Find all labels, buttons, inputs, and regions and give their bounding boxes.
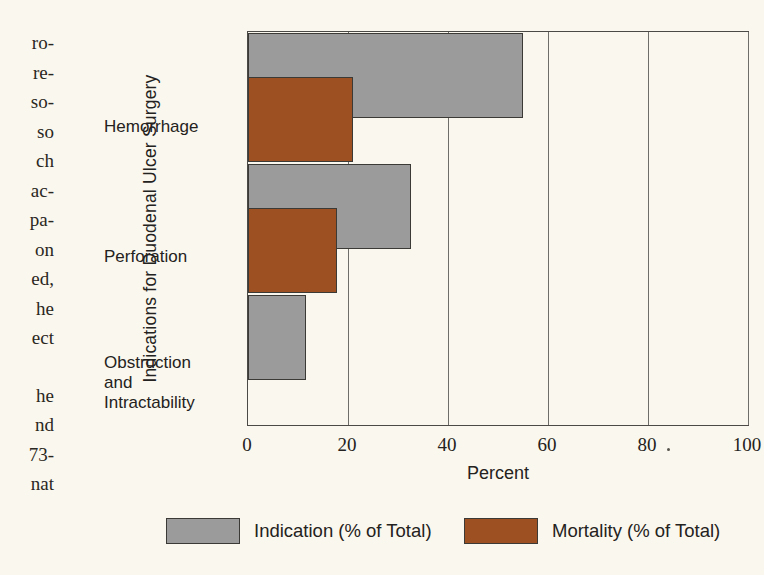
legend-label-mortality: Mortality (% of Total) [552, 520, 720, 542]
legend-swatch-indication [166, 518, 240, 544]
bar-perforation-mortality [248, 208, 337, 293]
body-text-fragment: ac- [0, 176, 54, 206]
category-label-line: Hemorrhage [104, 117, 244, 137]
body-text-fragment: he [0, 294, 54, 324]
text-spacer [0, 353, 54, 381]
category-label-hemorrhage: Hemorrhage [104, 117, 244, 137]
scan-artifact-dot [667, 448, 670, 451]
body-text-fragment: on [0, 235, 54, 265]
body-text-fragment: nat [0, 469, 54, 499]
category-label-perforation: Perforation [104, 247, 244, 267]
text-spacer [0, 0, 54, 28]
bar-obstruction-intractability-indication [248, 295, 306, 380]
plot-area [247, 31, 749, 426]
chart-legend: Indication (% of Total) Mortality (% of … [116, 518, 764, 558]
x-tick-label-80: 80 [638, 434, 657, 456]
body-text-fragment: 73- [0, 440, 54, 470]
body-text-fragment: he [0, 381, 54, 411]
x-tick-label-20: 20 [338, 434, 357, 456]
legend-entry-indication[interactable]: Indication (% of Total) [166, 518, 432, 544]
page-body-text-column: ro- re- so- so ch ac- pa- on ed, he ect … [0, 0, 58, 575]
body-text-fragment: pa- [0, 205, 54, 235]
x-tick-label-40: 40 [438, 434, 457, 456]
legend-entry-mortality[interactable]: Mortality (% of Total) [464, 518, 720, 544]
category-label-line: and [104, 373, 244, 393]
category-label-line: Obstruction [104, 353, 244, 373]
body-text-fragment: ch [0, 146, 54, 176]
body-text-fragment: ro- [0, 28, 54, 58]
body-text-fragment: re- [0, 58, 54, 88]
x-tick-label-60: 60 [538, 434, 557, 456]
x-axis-title: Percent [247, 463, 749, 484]
x-tick-label-100: 100 [733, 434, 762, 456]
bar-hemorrhage-mortality [248, 77, 353, 162]
category-label-line: Perforation [104, 247, 244, 267]
gridline-60 [548, 32, 549, 425]
body-text-fragment: ed, [0, 264, 54, 294]
y-axis-tick-labels: Hemorrhage Perforation Obstruction and I… [104, 31, 244, 426]
category-label-obstruction-intractability: Obstruction and Intractability [104, 353, 244, 413]
body-text-fragment: so- [0, 87, 54, 117]
x-axis: 020406080100 [247, 426, 749, 466]
legend-swatch-mortality [464, 518, 538, 544]
category-label-line: Intractability [104, 393, 244, 413]
gridline-100 [748, 32, 749, 425]
bar-chart-figure: Indications for Duodenal Ulcer Surgery H… [58, 0, 764, 575]
gridline-80 [648, 32, 649, 425]
body-text-fragment: so [0, 117, 54, 147]
body-text-fragment: nd [0, 410, 54, 440]
legend-label-indication: Indication (% of Total) [254, 520, 432, 542]
x-tick-label-0: 0 [242, 434, 252, 456]
body-text-fragment: ect [0, 323, 54, 353]
